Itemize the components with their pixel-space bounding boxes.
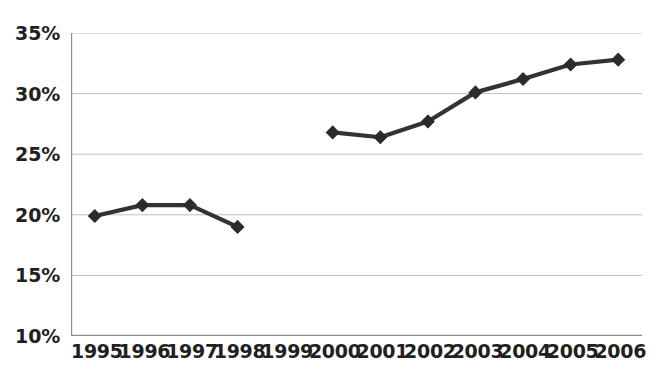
x-axis-tick-label: 1998	[214, 342, 262, 361]
x-axis-tick-label: 2005	[547, 342, 595, 361]
x-axis-tick-label: 1999	[261, 342, 309, 361]
y-axis-tick-label: 35%	[0, 24, 60, 43]
y-axis-tick-label: 10%	[0, 327, 60, 346]
x-axis-tick-label: 1995	[71, 342, 119, 361]
x-axis-tick-label: 2001	[357, 342, 405, 361]
y-axis: 10%15%20%25%30%35%	[0, 0, 60, 379]
data-point-marker	[231, 221, 243, 233]
data-point-marker	[327, 126, 339, 138]
data-point-marker	[564, 58, 576, 70]
x-axis: 1995199619971998199920002001200220032004…	[71, 342, 642, 372]
y-axis-tick-label: 15%	[0, 266, 60, 285]
x-axis-tick-label: 2006	[594, 342, 642, 361]
plot-area	[71, 33, 642, 336]
data-series	[71, 33, 642, 336]
y-axis-tick-label: 30%	[0, 84, 60, 103]
y-axis-tick-label: 25%	[0, 145, 60, 164]
x-axis-tick-label: 2000	[309, 342, 357, 361]
x-axis-tick-label: 2002	[404, 342, 452, 361]
x-axis-tick-label: 1997	[166, 342, 214, 361]
line-chart: 10%15%20%25%30%35% 199519961997199819992…	[0, 0, 664, 379]
data-point-marker	[136, 199, 148, 211]
data-point-marker	[184, 199, 196, 211]
data-point-marker	[517, 73, 529, 85]
x-axis-tick-label: 2003	[452, 342, 500, 361]
series-line	[95, 205, 238, 227]
y-axis-tick-label: 20%	[0, 205, 60, 224]
data-point-marker	[374, 131, 386, 143]
data-point-marker	[89, 210, 101, 222]
x-axis-tick-label: 1996	[119, 342, 167, 361]
x-axis-tick-label: 2004	[499, 342, 547, 361]
data-point-marker	[612, 53, 624, 65]
